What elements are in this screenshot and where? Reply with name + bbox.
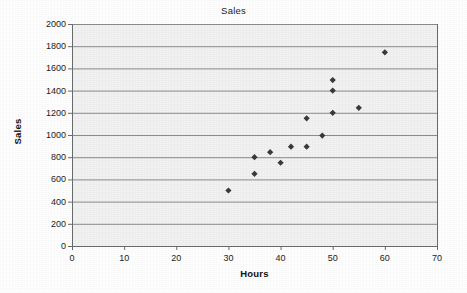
y-axis-label: Sales bbox=[12, 102, 23, 162]
x-tick-label: 20 bbox=[161, 253, 191, 263]
x-tick-label: 50 bbox=[318, 253, 348, 263]
x-tick-label: 10 bbox=[109, 253, 139, 263]
x-axis-ticks: 010203040506070 bbox=[0, 0, 467, 293]
x-axis-label: Hours bbox=[72, 268, 437, 279]
x-tick-label: 40 bbox=[266, 253, 296, 263]
chart-figure: Sales 0200400600800100012001400160018002… bbox=[0, 0, 467, 293]
x-tick-label: 30 bbox=[213, 253, 243, 263]
x-tick-label: 70 bbox=[422, 253, 452, 263]
x-tick-label: 60 bbox=[370, 253, 400, 263]
x-tick-label: 0 bbox=[57, 253, 87, 263]
